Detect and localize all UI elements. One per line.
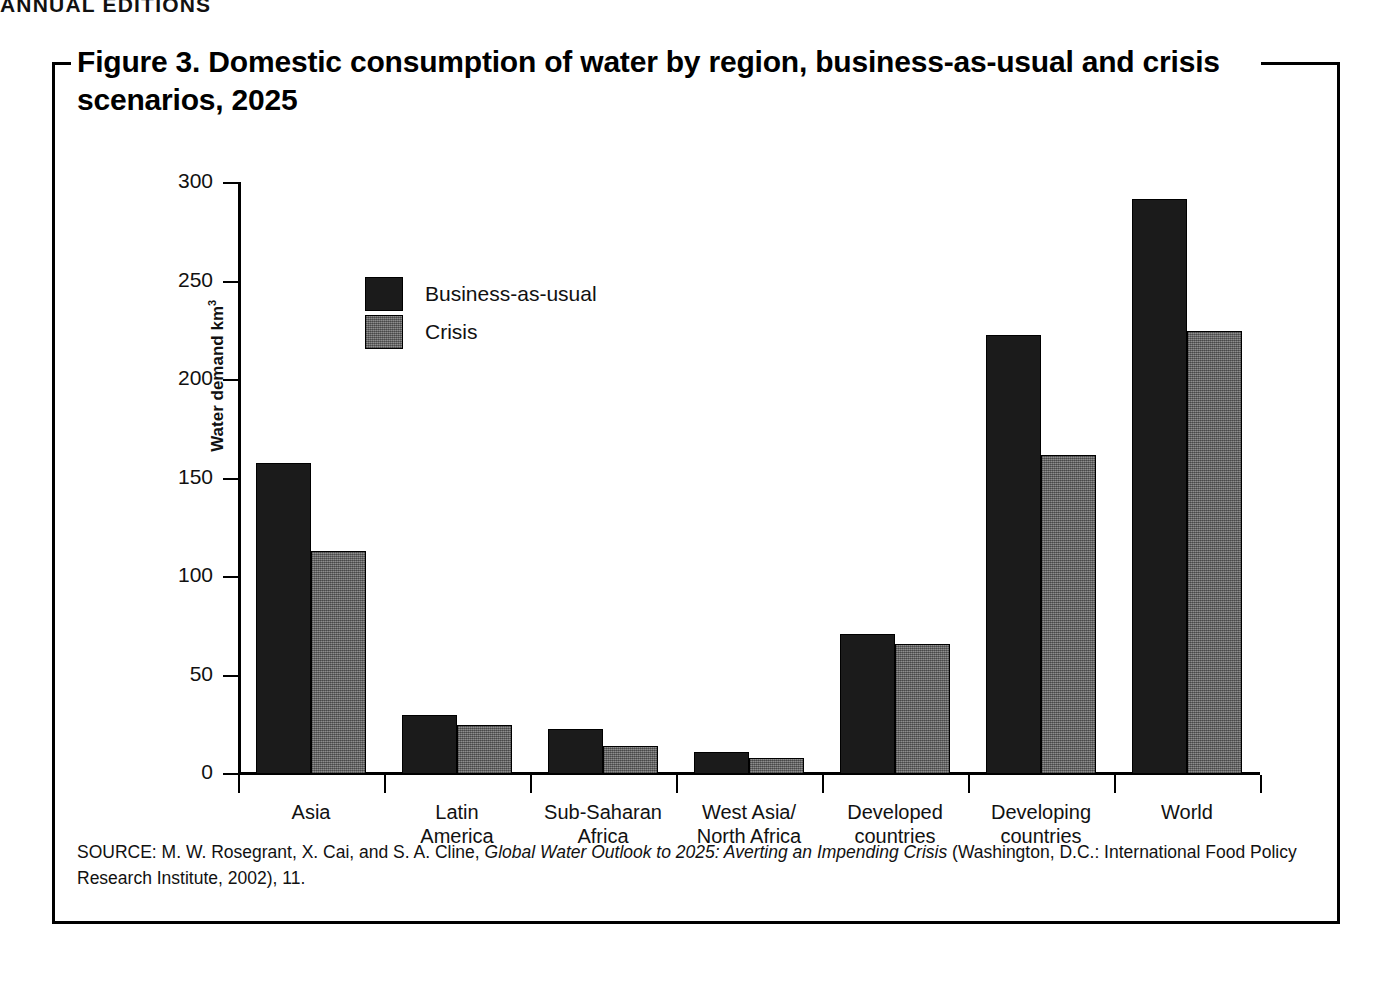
legend-swatch-icon-business-as-usual bbox=[365, 277, 403, 311]
legend-swatch-icon-crisis bbox=[365, 315, 403, 349]
y-axis-tick-label: 200 bbox=[143, 366, 213, 390]
x-axis-tick bbox=[530, 775, 532, 793]
x-axis-category-line: West Asia/ bbox=[664, 800, 834, 824]
y-axis-tick-label: 250 bbox=[143, 268, 213, 292]
y-axis-tick-label: 100 bbox=[143, 563, 213, 587]
plot-area: Water demand km3 050100150200250300 Asia… bbox=[55, 65, 1337, 921]
bar-business-as-usual bbox=[840, 634, 895, 774]
x-axis-tick bbox=[968, 775, 970, 793]
x-axis-tick bbox=[238, 775, 240, 793]
running-head: ANNUAL EDITIONS bbox=[0, 0, 211, 17]
x-axis-tick bbox=[1114, 775, 1116, 793]
legend-item-crisis: Crisis bbox=[365, 313, 597, 351]
bar-crisis bbox=[311, 551, 366, 774]
bar-crisis bbox=[749, 758, 804, 774]
bar-business-as-usual bbox=[986, 335, 1041, 774]
figure-frame: Figure 3. Domestic consumption of water … bbox=[52, 62, 1340, 924]
x-axis-category-line: World bbox=[1102, 800, 1272, 824]
x-axis-category-line: Latin bbox=[372, 800, 542, 824]
bar-crisis bbox=[1041, 455, 1096, 774]
bar-crisis bbox=[1187, 331, 1242, 774]
legend-item-business-as-usual: Business-as-usual bbox=[365, 275, 597, 313]
x-axis-category-label: World bbox=[1102, 800, 1272, 824]
x-axis-tick bbox=[676, 775, 678, 793]
legend-label-business-as-usual: Business-as-usual bbox=[425, 282, 597, 306]
x-axis-category-label: Asia bbox=[226, 800, 396, 824]
y-axis-tick-label: 50 bbox=[143, 662, 213, 686]
x-axis-tick bbox=[1260, 775, 1262, 793]
bar-crisis bbox=[895, 644, 950, 774]
source-prefix: SOURCE: M. W. Rosegrant, X. Cai, and S. … bbox=[77, 842, 485, 862]
chart-legend: Business-as-usual Crisis bbox=[365, 275, 597, 351]
bar-business-as-usual bbox=[256, 463, 311, 774]
bar-business-as-usual bbox=[548, 729, 603, 774]
y-axis-tick-label: 150 bbox=[143, 465, 213, 489]
y-axis-tick-label: 300 bbox=[143, 169, 213, 193]
x-axis-tick bbox=[384, 775, 386, 793]
bars-layer bbox=[238, 183, 1260, 774]
legend-label-crisis: Crisis bbox=[425, 320, 478, 344]
x-axis-category-line: Developed bbox=[810, 800, 980, 824]
source-note: SOURCE: M. W. Rosegrant, X. Cai, and S. … bbox=[77, 840, 1302, 891]
bar-business-as-usual bbox=[694, 752, 749, 774]
bar-crisis bbox=[603, 746, 658, 774]
source-title: Global Water Outlook to 2025: Averting a… bbox=[485, 842, 948, 862]
x-axis-category-line: Sub-Saharan bbox=[518, 800, 688, 824]
x-axis-category-line: Developing bbox=[956, 800, 1126, 824]
y-axis-tick-label: 0 bbox=[143, 760, 213, 784]
bar-business-as-usual bbox=[402, 715, 457, 774]
x-axis-category-line: Asia bbox=[226, 800, 396, 824]
bar-crisis bbox=[457, 725, 512, 774]
bar-business-as-usual bbox=[1132, 199, 1187, 774]
x-axis-tick bbox=[822, 775, 824, 793]
